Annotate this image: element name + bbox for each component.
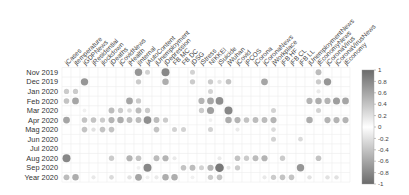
- correlation-circle: [234, 117, 240, 123]
- correlation-circle: [315, 98, 322, 105]
- correlation-circle: [226, 79, 232, 85]
- correlation-circle: [271, 108, 276, 113]
- correlation-circle: [225, 117, 232, 124]
- y-axis-labels: Nov 2019Dec 2019Jan 2020Feb 2020Mar 2020…: [25, 68, 58, 182]
- row-label: Apr 2020: [28, 116, 58, 125]
- correlation-circle: [190, 165, 196, 171]
- correlation-circle: [235, 155, 241, 161]
- colorbar-tick-label: 0.6: [378, 89, 387, 96]
- row-label: Dec 2019: [26, 77, 58, 86]
- correlation-circle: [82, 117, 88, 123]
- correlation-circle: [261, 155, 267, 161]
- correlation-circle: [73, 89, 78, 94]
- correlation-circle: [64, 98, 70, 104]
- correlation-circle: [297, 164, 304, 171]
- correlation-circle: [136, 108, 142, 114]
- colorbar-tick-label: -0.4: [378, 146, 389, 153]
- correlation-circle: [162, 174, 169, 181]
- correlation-circle: [118, 108, 123, 113]
- correlation-circle: [136, 79, 141, 84]
- correlation-circle: [145, 108, 150, 113]
- correlation-circle: [126, 98, 133, 105]
- correlation-circle: [127, 108, 132, 113]
- correlation-circle: [235, 128, 239, 132]
- correlation-circle: [144, 164, 152, 172]
- correlation-circle: [215, 163, 224, 172]
- correlation-circle: [172, 127, 177, 132]
- correlation-circle: [144, 116, 152, 124]
- correlation-circle: [181, 165, 187, 171]
- correlation-circle: [136, 155, 142, 161]
- correlation-circle: [127, 117, 133, 123]
- row-label: Jun 2020: [28, 135, 58, 144]
- correlation-circle: [208, 79, 213, 84]
- colorbar-tick-labels: 10.80.60.40.20-0.2-0.4-0.6-0.8-1: [374, 66, 389, 187]
- correlation-circle: [270, 117, 276, 123]
- colorbar-gradient: [362, 70, 374, 184]
- correlation-circle: [135, 69, 142, 76]
- colorbar-tick-label: -1: [378, 180, 384, 187]
- correlation-circle: [81, 78, 88, 85]
- colorbar-tick-label: 1: [378, 66, 382, 73]
- color-legend: [362, 70, 374, 184]
- row-label: Sep 2020: [26, 163, 58, 172]
- correlation-circle: [154, 117, 160, 123]
- correlation-circle: [216, 97, 224, 105]
- correlation-circle: [244, 156, 249, 161]
- correlation-circle: [217, 175, 223, 181]
- colorbar-tick-label: -0.8: [378, 169, 389, 176]
- correlation-circle: [181, 127, 186, 132]
- correlation-circle: [306, 98, 312, 104]
- correlation-circle: [225, 106, 233, 114]
- correlation-circle: [154, 175, 158, 179]
- correlation-circle: [109, 175, 114, 180]
- correlation-circle: [253, 155, 259, 161]
- correlation-circle: [117, 117, 124, 124]
- correlation-circle: [333, 97, 340, 104]
- correlation-circle: [262, 117, 268, 123]
- correlation-circle: [235, 165, 240, 170]
- correlation-circle: [109, 127, 115, 133]
- correlation-circle: [271, 127, 276, 132]
- correlation-circle: [91, 117, 97, 123]
- correlation-circle: [207, 107, 214, 114]
- correlation-circle: [135, 174, 142, 181]
- row-label: Mag 2020: [25, 125, 58, 134]
- row-label: Year 2020: [25, 173, 58, 182]
- correlation-circle: [324, 117, 330, 123]
- correlation-circle: [83, 109, 87, 113]
- correlation-circle: [316, 89, 320, 93]
- row-label: Jan 2020: [28, 87, 58, 96]
- correlation-circle: [316, 108, 321, 113]
- colorbar-tick-label: 0.2: [378, 112, 387, 119]
- correlation-circle: [280, 175, 286, 181]
- correlation-circle: [209, 118, 213, 122]
- correlation-circle: [91, 175, 95, 179]
- correlation-circle: [306, 117, 313, 124]
- correlation-circle: [253, 117, 259, 123]
- correlation-circle: [190, 70, 195, 75]
- correlation-circle: [342, 117, 348, 123]
- correlation-circle: [162, 155, 168, 161]
- correlation-circle: [154, 155, 160, 161]
- correlation-circle: [190, 79, 195, 84]
- correlation-circle: [316, 79, 321, 84]
- correlation-circle: [91, 127, 95, 131]
- colorbar-tick-label: 0.4: [378, 100, 387, 107]
- correlation-circle: [307, 175, 311, 179]
- correlation-circle: [334, 175, 338, 179]
- correlation-circle: [172, 156, 176, 160]
- correlation-circle: [109, 156, 114, 161]
- correlation-circle: [324, 98, 330, 104]
- x-axis-labels: jCasesjtemperaturejGDPNewsjResidentialjl…: [63, 17, 378, 68]
- correlation-circle: [324, 78, 331, 85]
- correlation-circle: [126, 155, 132, 161]
- plot-grid: [62, 68, 350, 183]
- correlation-circle: [136, 117, 142, 123]
- correlation-circle: [145, 70, 150, 75]
- correlation-circle: [64, 89, 69, 94]
- correlation-circle: [171, 174, 178, 181]
- row-label: Mar 2020: [27, 106, 58, 115]
- row-label: Jul 2020: [30, 144, 58, 153]
- correlation-circle: [100, 127, 106, 133]
